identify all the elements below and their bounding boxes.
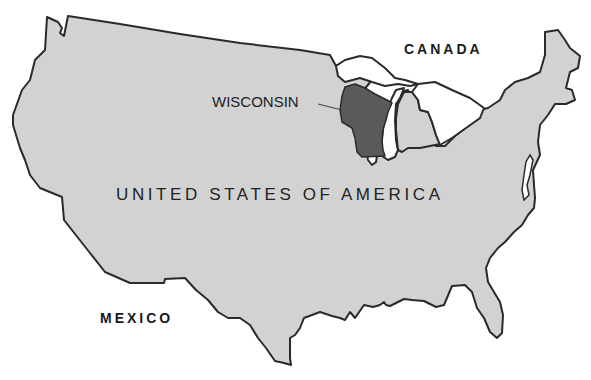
- lake-superior: [336, 56, 418, 86]
- wisconsin-label: WISCONSIN: [212, 94, 299, 109]
- canada-label: CANADA: [404, 42, 483, 56]
- mexico-label: MEXICO: [100, 311, 173, 325]
- usa-label: UNITED STATES OF AMERICA: [116, 186, 444, 203]
